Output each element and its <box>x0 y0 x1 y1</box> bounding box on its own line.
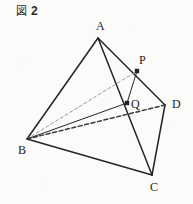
vertex-label-b: B <box>18 143 26 157</box>
tetrahedron-drawing: ABCDPQ <box>0 0 193 204</box>
vertex-label-q: Q <box>131 97 140 111</box>
vertex-label-a: A <box>96 19 105 33</box>
edge-cd <box>152 105 165 175</box>
point-marker-p <box>135 69 139 73</box>
edge-ad <box>98 38 165 105</box>
vertex-label-d: D <box>172 97 181 111</box>
edge-bc <box>27 139 152 175</box>
vertex-label-p: P <box>139 53 146 67</box>
point-marker-q <box>125 101 129 105</box>
figure-container: 図 2 ABCDPQ <box>0 0 193 204</box>
vertex-label-c: C <box>150 180 158 194</box>
